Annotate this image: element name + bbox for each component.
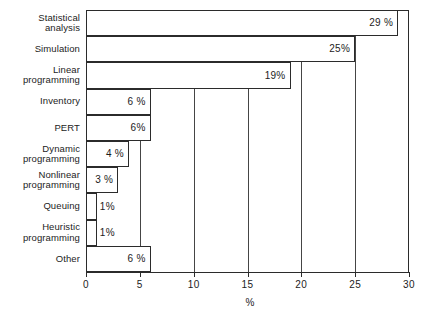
x-tick-10 (194, 272, 195, 277)
plot-area: 29 %25%19%6 %6%4 %3 %1%1%6 % (86, 10, 409, 272)
bar (86, 36, 355, 62)
category-label-line: programming (23, 154, 80, 165)
x-tick-15 (248, 272, 249, 277)
category-label-line: Inventory (40, 96, 80, 107)
x-axis-title: % (0, 297, 434, 308)
category-axis-labels: StatisticalanalysisSimulationLinearprogr… (0, 10, 80, 272)
bar-value-label: 1% (100, 228, 115, 238)
x-tick-label-25: 25 (349, 279, 361, 290)
category-label-line: programming (23, 75, 80, 86)
category-label: Other (0, 246, 80, 272)
plot-frame-right (408, 10, 409, 272)
category-label-line: Other (56, 254, 80, 265)
category-label: Simulation (0, 36, 80, 62)
category-label-line: programming (23, 180, 80, 191)
category-label: Dynamicprogramming (0, 141, 80, 167)
x-tick-30 (409, 272, 410, 277)
category-label: PERT (0, 115, 80, 141)
x-tick-label-20: 20 (295, 279, 307, 290)
bar-value-label: 29 % (366, 18, 393, 28)
bar-value-label: 3 % (86, 175, 113, 185)
bar-chart: StatisticalanalysisSimulationLinearprogr… (0, 0, 434, 320)
x-tick-label-30: 30 (403, 279, 415, 290)
bar-value-label: 6 % (119, 97, 146, 107)
category-label-line: Simulation (35, 44, 80, 55)
bar (86, 193, 97, 219)
bar-value-label: 6 % (119, 254, 146, 264)
category-label-line: analysis (45, 23, 80, 34)
x-tick-5 (140, 272, 141, 277)
bar-value-label: 19% (259, 71, 286, 81)
x-tick-20 (301, 272, 302, 277)
category-label: Heuristicprogramming (0, 220, 80, 246)
category-label: Inventory (0, 89, 80, 115)
x-tick-label-5: 5 (137, 279, 143, 290)
category-label-line: PERT (54, 123, 80, 134)
bar-value-label: 6% (119, 123, 146, 133)
x-tick-label-10: 10 (188, 279, 200, 290)
category-label: Statisticalanalysis (0, 10, 80, 36)
category-label-line: programming (23, 233, 80, 244)
bar-value-label: 4 % (97, 149, 124, 159)
bar-value-label: 25% (323, 44, 350, 54)
category-label: Queuing (0, 193, 80, 219)
x-tick-25 (355, 272, 356, 277)
bar-value-label: 1% (100, 202, 115, 212)
category-label: Nonlinearprogramming (0, 167, 80, 193)
x-tick-0 (86, 272, 87, 277)
gridline-25 (355, 10, 356, 272)
category-label: Linearprogramming (0, 62, 80, 88)
x-tick-label-15: 15 (242, 279, 254, 290)
bar (86, 10, 398, 36)
bar (86, 220, 97, 246)
x-axis-title-text: % (246, 297, 255, 308)
category-label-line: Queuing (43, 201, 80, 212)
x-tick-label-0: 0 (83, 279, 89, 290)
